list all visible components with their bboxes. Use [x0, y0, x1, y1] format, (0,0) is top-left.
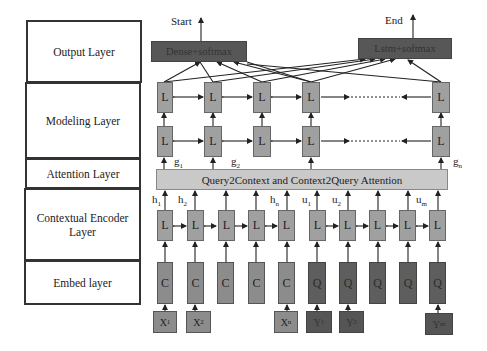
query-embed-cell: Q	[399, 262, 417, 304]
u2-label: u2	[332, 193, 341, 208]
context-embed-cell: C	[187, 262, 204, 304]
cell-label: L	[434, 218, 441, 233]
modeling-lstm-cell: L	[157, 82, 173, 113]
g2-label: g2	[231, 155, 240, 170]
context-embed-cell: C	[248, 262, 265, 304]
modeling-lstm-cell: L	[204, 126, 222, 157]
cell-label: L	[258, 134, 265, 149]
context-embed-cell: C	[217, 262, 234, 304]
h2-label: h2	[178, 193, 187, 208]
contextual-lstm-cell: L	[339, 210, 356, 241]
contextual-lstm-cell: L	[399, 210, 416, 241]
query-input-y1: Y1	[306, 311, 332, 333]
dense-softmax-box: Dense+softmax	[151, 41, 247, 62]
query-embed-cell: Q	[339, 262, 357, 304]
cell-label: L	[437, 90, 444, 105]
contextual-lstm-cell: L	[187, 210, 204, 241]
g1-label: g1	[174, 155, 183, 170]
modeling-lstm-cell: L	[432, 126, 450, 157]
query-embed-cell: Q	[308, 262, 326, 304]
contextual-lstm-cell: L	[248, 210, 265, 241]
cell-label: L	[209, 134, 216, 149]
cell-label: Q	[404, 276, 413, 291]
context-input-x1: X1	[153, 311, 177, 333]
cell-label: L	[192, 218, 199, 233]
cell-label: L	[258, 90, 265, 105]
context-embed-cell: C	[157, 262, 173, 304]
cell-label: Q	[433, 276, 442, 291]
query-input-ym: Ym	[425, 313, 453, 335]
modeling-lstm-cell: L	[204, 82, 222, 113]
query-input-y2: Y2	[339, 311, 364, 333]
modeling-lstm-cell: L	[157, 126, 173, 157]
modeling-lstm-cell: L	[253, 82, 271, 113]
cell-label: L	[253, 218, 260, 233]
contextual-lstm-cell: L	[429, 210, 446, 241]
query-embed-cell: Q	[369, 262, 386, 304]
cell-label: Q	[373, 276, 382, 291]
cell-label: L	[374, 218, 381, 233]
cell-label: L	[404, 218, 411, 233]
modeling-lstm-cell: L	[253, 126, 271, 157]
attention-bar: Query2Context and Context2Query Attentio…	[156, 169, 448, 190]
contextual-lstm-cell: L	[218, 210, 235, 241]
contextual-lstm-cell: L	[369, 210, 386, 241]
cell-label: Q	[313, 276, 322, 291]
end-label: End	[385, 14, 403, 26]
cell-label: L	[161, 134, 168, 149]
u1-label: u1	[302, 193, 311, 208]
cell-label: C	[252, 276, 260, 291]
context-input-x2: X2	[186, 311, 211, 333]
dense-softmax-label: Dense+softmax	[166, 46, 232, 57]
h1-label: h1	[152, 193, 161, 208]
cell-label: Q	[344, 276, 353, 291]
cell-label: L	[344, 218, 351, 233]
cell-label: C	[221, 276, 229, 291]
contextual-lstm-cell: L	[157, 210, 173, 241]
context-input-xn: Xn	[274, 311, 298, 333]
cell-label: L	[307, 134, 314, 149]
um-label: um	[416, 193, 427, 208]
cell-label: L	[209, 90, 216, 105]
cell-label: C	[282, 276, 290, 291]
lstm-softmax-label: Lstm+softmax	[374, 43, 435, 54]
attention-label: Query2Context and Context2Query Attentio…	[202, 174, 403, 186]
hn-label: hn	[270, 193, 279, 208]
cell-label: L	[314, 218, 321, 233]
contextual-lstm-cell: L	[278, 210, 295, 241]
contextual-lstm-cell: L	[309, 210, 326, 241]
modeling-lstm-cell: L	[302, 126, 320, 157]
lstm-softmax-box: Lstm+softmax	[358, 38, 452, 59]
start-label: Start	[171, 15, 192, 27]
cell-label: C	[161, 276, 169, 291]
cell-label: L	[283, 218, 290, 233]
cell-label: L	[307, 90, 314, 105]
query-embed-cell: Q	[429, 262, 446, 304]
modeling-lstm-cell: L	[432, 82, 450, 113]
cell-label: C	[191, 276, 199, 291]
cell-label: L	[437, 134, 444, 149]
cell-label: L	[161, 218, 168, 233]
cell-label: L	[223, 218, 230, 233]
cell-label: L	[161, 90, 168, 105]
context-embed-cell: C	[278, 262, 295, 304]
gn-label: gn	[453, 155, 462, 170]
modeling-lstm-cell: L	[302, 82, 320, 113]
